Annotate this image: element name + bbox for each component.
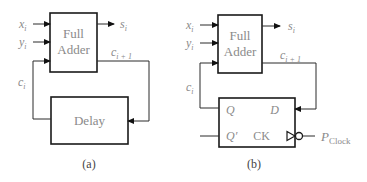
carry-in-label-b: ci	[186, 80, 194, 96]
d-input-label: D	[269, 103, 279, 117]
full-adder-label-a-line1: Full	[63, 26, 84, 41]
sum-output-label-b: si	[288, 19, 295, 35]
sum-output-label-a: si	[120, 17, 127, 33]
q-bar-output-label: Q′	[226, 129, 238, 143]
caption-b: (b)	[247, 157, 261, 171]
full-adder-label-b-line2: Adder	[224, 44, 257, 59]
full-adder-label-b-line1: Full	[230, 28, 251, 43]
delay-label: Delay	[74, 113, 106, 128]
full-adder-label-a-line2: Adder	[57, 42, 90, 57]
caption-a: (a)	[82, 157, 95, 171]
carry-out-label-b: ci + 1	[280, 48, 301, 64]
clock-inversion-bubble-icon	[296, 133, 303, 140]
clock-label: PClock	[320, 129, 351, 146]
carry-out-wire-a	[97, 61, 149, 121]
input-y-label-a: yi	[18, 35, 27, 51]
carry-in-label-a: ci	[18, 75, 26, 91]
input-y-label-b: yi	[185, 36, 194, 52]
carry-in-wire-b	[200, 63, 219, 108]
carry-in-wire-a	[33, 61, 51, 119]
diagram-b: Full Adder xi yi si ci + 1 Q Q′ D CK ci …	[185, 15, 351, 171]
input-x-label-b: xi	[185, 18, 194, 34]
ck-input-label: CK	[253, 129, 270, 143]
carry-out-label-a: ci + 1	[111, 45, 132, 61]
q-output-label: Q	[226, 103, 235, 117]
clock-edge-triangle-icon	[287, 132, 295, 141]
diagram-a: Full Adder xi yi si ci + 1 Delay ci (a)	[18, 13, 149, 171]
serial-adder-diagrams: Full Adder xi yi si ci + 1 Delay ci (a) …	[0, 0, 367, 182]
input-x-label-a: xi	[18, 17, 27, 33]
